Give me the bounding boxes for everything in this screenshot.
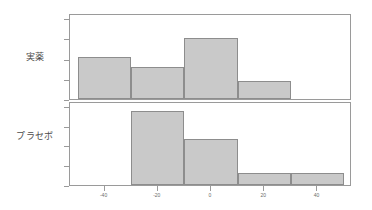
histogram-chart: 実薬 プラセボ -40-2002040 (0, 0, 372, 210)
bar (238, 81, 291, 99)
bar (184, 139, 237, 185)
panel-label-placebo: プラセボ (6, 132, 64, 142)
y-axis-tick (64, 100, 69, 101)
y-axis-tick (64, 186, 69, 187)
y-axis-tick (64, 80, 69, 81)
x-axis-tick-label: -40 (89, 192, 119, 198)
bar-group-active (70, 15, 350, 99)
bar (131, 111, 184, 185)
bar (184, 38, 237, 99)
bar (131, 67, 184, 99)
bar (291, 173, 344, 185)
x-axis-tick-label: 40 (301, 192, 331, 198)
x-axis-tick (263, 186, 264, 191)
x-axis-tick-label: 20 (248, 192, 278, 198)
y-axis-tick (64, 60, 69, 61)
y-axis-tick (64, 127, 69, 128)
y-axis-tick (64, 166, 69, 167)
y-axis-tick (64, 107, 69, 108)
x-axis-tick-label: 0 (195, 192, 225, 198)
bar-group-placebo (70, 103, 350, 185)
y-axis-tick (64, 19, 69, 20)
bar (78, 57, 131, 99)
y-axis-tick (64, 146, 69, 147)
panel-placebo (69, 102, 351, 186)
x-axis-tick (210, 186, 211, 191)
x-axis-tick (157, 186, 158, 191)
y-axis-tick (64, 39, 69, 40)
x-axis-tick (104, 186, 105, 191)
panel-label-active: 実薬 (6, 53, 64, 63)
panel-active (69, 14, 351, 100)
x-axis-tick-label: -20 (142, 192, 172, 198)
x-axis-tick (316, 186, 317, 191)
bar (238, 173, 291, 185)
